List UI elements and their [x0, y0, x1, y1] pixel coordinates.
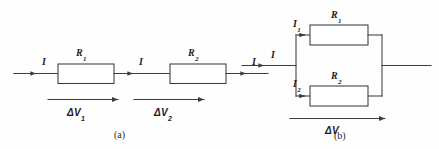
panel-caption-a: (a) — [114, 130, 125, 140]
voltage-label-a-dv1-symbol: ΔV — [67, 107, 81, 118]
resistor-label-a-r1-subscript: 1 — [83, 55, 87, 63]
current-label-b-i1-subscript: 1 — [297, 26, 301, 34]
resistor-label-b-r1: R1 — [331, 10, 341, 20]
resistor-label-a-r2: R2 — [188, 48, 198, 58]
circuit-schematic-canvas — [0, 0, 439, 149]
resistor-label-a-r2-subscript: 2 — [195, 55, 199, 63]
panel-caption-b: (b) — [334, 131, 346, 141]
resistor-label-a-r1-symbol: R — [76, 47, 83, 58]
voltage-label-a-dv1-subscript: 1 — [81, 115, 85, 122]
resistor-box-b-r1 — [310, 25, 368, 45]
panel-a-series-circuit — [14, 64, 268, 100]
current-label-b-i2-subscript: 2 — [297, 86, 301, 94]
resistor-label-b-r1-symbol: R — [331, 9, 338, 20]
current-label-b-input: I — [271, 50, 275, 60]
current-label-b-i1: I1 — [293, 19, 300, 29]
current-label-a-input: I — [42, 57, 46, 67]
voltage-label-a-dv2-subscript: 2 — [168, 115, 172, 122]
resistor-label-b-r2-subscript: 2 — [338, 78, 342, 86]
current-label-a-middle: I — [139, 57, 143, 67]
voltage-label-a-dv2-symbol: ΔV — [154, 107, 168, 118]
resistor-label-a-r2-symbol: R — [188, 47, 195, 58]
resistor-label-b-r2: R2 — [331, 71, 341, 81]
resistor-box-b-r2 — [310, 86, 368, 106]
circuit-diagram-figure: I R1 I R2 I ΔV1 ΔV2 (a) I I1 I2 R1 R2 ΔV… — [0, 0, 439, 149]
current-label-a-output: I — [252, 57, 256, 67]
resistor-label-b-r2-symbol: R — [331, 70, 338, 81]
voltage-label-a-dv2: ΔV2 — [154, 108, 172, 118]
resistor-box-a-r2 — [170, 64, 226, 84]
resistor-box-a-r1 — [58, 64, 114, 84]
voltage-label-a-dv1: ΔV1 — [67, 108, 85, 118]
resistor-label-b-r1-subscript: 1 — [338, 17, 342, 25]
current-label-b-i2: I2 — [293, 79, 300, 89]
resistor-label-a-r1: R1 — [76, 48, 86, 58]
